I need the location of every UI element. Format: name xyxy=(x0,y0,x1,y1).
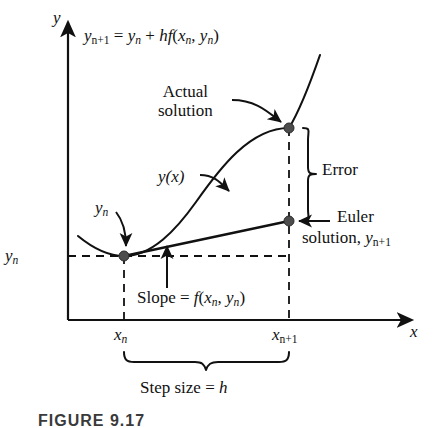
formula-lhs-sub: n+1 xyxy=(92,34,110,47)
figure-container: y x yn+1 = yn + hf(xn, yn) Actual soluti… xyxy=(0,0,441,428)
yn-point-sub: n xyxy=(103,206,109,219)
step-size-label: Step size = h xyxy=(140,378,228,397)
slope-arg1-base: x xyxy=(204,288,212,307)
yn-point-label: yn xyxy=(95,198,108,220)
euler-solution-base: y xyxy=(365,228,373,247)
y-axis-label: y xyxy=(53,8,61,27)
euler-solution-label-line2: solution, yn+1 xyxy=(302,228,391,250)
point-euler-solution xyxy=(284,216,294,226)
slope-comma: , xyxy=(218,288,227,307)
x-tick-label-xn: xn xyxy=(114,325,127,347)
x-tick-xn-base: x xyxy=(114,325,122,344)
x-tick-xn1-sub: n+1 xyxy=(280,333,298,346)
error-brace xyxy=(303,128,316,221)
error-label: Error xyxy=(322,160,358,179)
curve-function-label: y(x) xyxy=(158,167,184,186)
step-size-h: h xyxy=(219,378,228,397)
euler-solution-sub: n+1 xyxy=(373,236,391,249)
actual-solution-line1: Actual xyxy=(158,82,213,101)
formula-equals: = xyxy=(110,26,128,45)
formula-plus: + xyxy=(141,26,159,45)
slope-paren-close: ) xyxy=(239,288,245,307)
formula-comma: , xyxy=(191,26,200,45)
yn-point-leader-arrow xyxy=(116,212,126,246)
euler-solution-line xyxy=(124,221,289,256)
point-actual-solution xyxy=(284,123,294,133)
point-start-xn-yn xyxy=(119,251,129,261)
y-tick-sub: n xyxy=(13,254,19,267)
x-tick-xn-sub: n xyxy=(122,333,128,346)
slope-label: Slope = f(xn, yn) xyxy=(137,288,245,310)
y-tick-label-yn: yn xyxy=(5,246,18,268)
formula-lhs-base: y xyxy=(84,26,92,45)
formula-h: h xyxy=(159,26,168,45)
formula-paren-close: ) xyxy=(213,26,219,45)
step-size-prefix: Step size = xyxy=(140,378,219,397)
figure-caption: FIGURE 9.17 xyxy=(38,412,145,428)
slope-prefix: Slope = xyxy=(137,288,194,307)
formula-arg1-base: x xyxy=(178,26,186,45)
actual-solution-label: Actual solution xyxy=(158,82,213,120)
euler-solution-prefix: solution, xyxy=(302,228,365,247)
yn-point-base: y xyxy=(95,198,103,217)
euler-method-diagram xyxy=(0,0,441,428)
actual-solution-leader-arrow xyxy=(232,100,281,122)
x-tick-xn1-base: x xyxy=(272,325,280,344)
euler-solution-label-line1: Euler xyxy=(337,207,374,226)
actual-solution-line2: solution xyxy=(158,101,213,120)
y-tick-base: y xyxy=(5,246,13,265)
euler-formula: yn+1 = yn + hf(xn, yn) xyxy=(84,26,219,48)
slope-arg2-base: y xyxy=(226,288,234,307)
yx-leader-arrow xyxy=(200,175,229,191)
x-axis-label: x xyxy=(410,322,418,341)
x-tick-label-xn1: xn+1 xyxy=(272,325,298,347)
step-size-brace xyxy=(124,352,289,370)
